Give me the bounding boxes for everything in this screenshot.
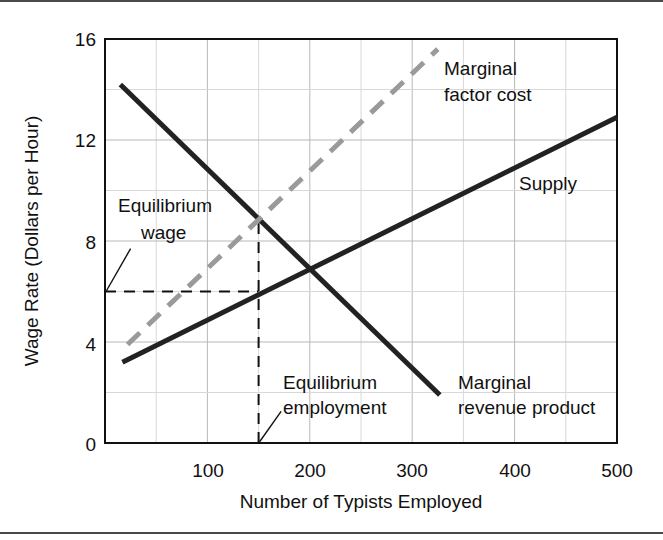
marginal-factor-cost-label-line2: factor cost xyxy=(444,84,532,105)
y-axis-title: Wage Rate (Dollars per Hour) xyxy=(21,116,42,367)
equilibrium-employment-label-line1: Equilibrium xyxy=(283,372,377,393)
marginal-revenue-product-label-line1: Marginal xyxy=(458,372,531,393)
y-tick-label-0: 0 xyxy=(85,434,96,455)
marginal-factor-cost-label-line1: Marginal xyxy=(444,58,517,79)
x-axis-tick-labels: 100 200 300 400 500 xyxy=(192,460,633,481)
equilibrium-wage-label-line2: wage xyxy=(140,222,186,243)
x-tick-label-100: 100 xyxy=(192,460,224,481)
y-tick-label-8: 8 xyxy=(85,232,96,253)
x-axis-title: Number of Typists Employed xyxy=(240,491,483,512)
x-tick-label-500: 500 xyxy=(601,460,633,481)
annotation-leaders xyxy=(106,249,281,442)
chart-canvas: 16 12 8 4 0 100 200 300 400 500 Number o… xyxy=(0,0,663,540)
chart-annotations: Marginal factor cost Supply Equilibrium … xyxy=(118,58,596,418)
y-tick-label-16: 16 xyxy=(75,29,96,50)
marginal-revenue-product-label-line2: revenue product xyxy=(458,397,596,418)
y-tick-label-4: 4 xyxy=(85,334,96,355)
y-tick-label-12: 12 xyxy=(75,130,96,151)
x-tick-label-200: 200 xyxy=(294,460,326,481)
x-tick-label-400: 400 xyxy=(499,460,531,481)
figure-container: 16 12 8 4 0 100 200 300 400 500 Number o… xyxy=(0,0,663,540)
equilibrium-employment-label-line2: employment xyxy=(283,397,387,418)
y-axis-tick-labels: 16 12 8 4 0 xyxy=(75,29,97,455)
equilibrium-employment-label-leader xyxy=(260,411,282,441)
data-series xyxy=(120,49,617,395)
equilibrium-wage-label-line1: Equilibrium xyxy=(118,195,212,216)
supply-label: Supply xyxy=(519,173,578,194)
equilibrium-wage-label-leader xyxy=(106,249,131,292)
x-tick-label-300: 300 xyxy=(396,460,428,481)
